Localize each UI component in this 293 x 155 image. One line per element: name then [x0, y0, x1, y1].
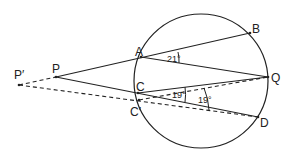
angle-label-C: 19°	[172, 90, 186, 100]
label-Q: Q	[271, 71, 280, 85]
label-P: P	[52, 62, 60, 76]
label-Pprime: P′	[14, 68, 25, 82]
line-PD	[56, 77, 258, 117]
angle-label-A: 21°	[167, 54, 181, 64]
geometry-diagram: P′ P A B C C′ Q D 21° 19° 19°	[0, 0, 293, 155]
angle-label-Cprime: 19°	[198, 95, 212, 105]
line-AQ	[141, 57, 268, 77]
label-C: C	[136, 80, 145, 94]
line-PB	[56, 33, 250, 77]
line-CQ	[138, 77, 268, 93]
point-Cprime	[138, 99, 141, 102]
label-Cprime: C′	[130, 105, 142, 119]
point-B	[249, 32, 252, 35]
point-Q	[267, 76, 270, 79]
circle	[134, 14, 268, 148]
label-B: B	[252, 22, 260, 36]
label-A: A	[135, 45, 143, 59]
point-D	[257, 116, 260, 119]
label-D: D	[260, 116, 269, 130]
point-P	[55, 76, 58, 79]
point-Pprime	[18, 84, 21, 87]
line-PprimeP	[19, 77, 56, 85]
